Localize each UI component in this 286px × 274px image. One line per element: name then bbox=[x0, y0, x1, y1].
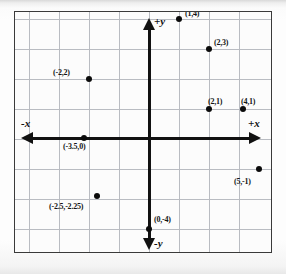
x-axis-positive-arrowhead bbox=[249, 132, 261, 144]
data-point-label: (0,-4) bbox=[154, 215, 171, 224]
data-point-label: (2,1) bbox=[208, 97, 222, 106]
gridline-horizontal bbox=[15, 199, 271, 200]
data-point bbox=[81, 135, 87, 141]
data-point bbox=[94, 193, 100, 199]
gridline-horizontal bbox=[15, 169, 271, 170]
gridline-vertical bbox=[179, 12, 180, 252]
data-point bbox=[146, 226, 152, 232]
axis-label-x-negative: -x bbox=[21, 117, 30, 129]
data-point-label: (-2,2) bbox=[53, 68, 70, 77]
gridline-horizontal bbox=[15, 49, 271, 50]
gridline-vertical bbox=[239, 12, 240, 252]
plot-area: +x -x +y -y (1,4) (2,3) (-2,2) (2,1) (4,… bbox=[15, 12, 271, 252]
data-point bbox=[206, 46, 212, 52]
data-point-label: (5,-1) bbox=[234, 177, 251, 186]
gridline-vertical bbox=[119, 12, 120, 252]
data-point bbox=[240, 106, 246, 112]
data-point bbox=[86, 76, 92, 82]
axis-label-x-positive: +x bbox=[248, 117, 260, 129]
gridline-horizontal bbox=[15, 229, 271, 230]
data-point-label: (1,4) bbox=[185, 12, 199, 18]
gridline-horizontal bbox=[15, 79, 271, 80]
data-point bbox=[206, 106, 212, 112]
x-axis bbox=[33, 137, 249, 140]
x-axis-negative-arrowhead bbox=[21, 132, 33, 144]
coordinate-plane-figure: +x -x +y -y (1,4) (2,3) (-2,2) (2,1) (4,… bbox=[0, 0, 286, 274]
gridline-vertical bbox=[89, 12, 90, 252]
gridline-vertical bbox=[59, 12, 60, 252]
data-point-label: (-2.5,-2.25) bbox=[49, 202, 83, 211]
figure-frame: +x -x +y -y (1,4) (2,3) (-2,2) (2,1) (4,… bbox=[14, 11, 272, 253]
y-axis bbox=[148, 30, 151, 238]
axis-label-y-negative: -y bbox=[154, 237, 163, 249]
gridline-horizontal bbox=[15, 109, 271, 110]
data-point bbox=[176, 16, 182, 22]
data-point-label: (-3.5,0) bbox=[63, 142, 85, 151]
axis-label-y-positive: +y bbox=[154, 15, 165, 27]
data-point bbox=[256, 166, 262, 172]
data-point-label: (4,1) bbox=[241, 97, 255, 106]
data-point-label: (2,3) bbox=[214, 38, 228, 47]
